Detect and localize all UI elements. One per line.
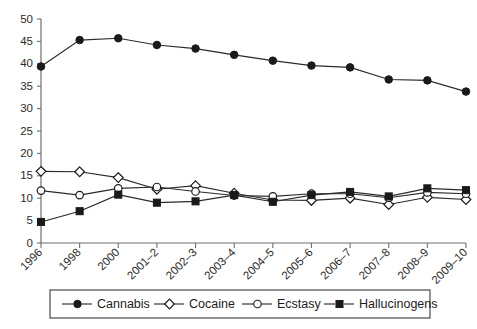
data-point-marker (75, 167, 85, 177)
data-point-marker (192, 45, 200, 53)
data-point-marker (462, 88, 470, 96)
y-axis-tick-label: 0 (27, 237, 33, 249)
y-axis-tick-label: 5 (27, 214, 33, 226)
data-point-marker (424, 185, 431, 192)
data-point-marker (76, 36, 84, 44)
x-axis-tick-label: 2006–7 (318, 246, 354, 282)
chart-legend: CannabisCocaineEcstasyHallucinogens (50, 290, 438, 318)
data-point-marker (336, 300, 343, 307)
x-axis: 1996199820002001–22002–32003–42004–52005… (18, 243, 470, 286)
x-axis-tick-label: 2004–5 (241, 246, 277, 282)
data-point-marker (37, 63, 45, 71)
x-axis-tick-label: 2008–9 (395, 246, 431, 282)
data-point-marker (115, 191, 122, 198)
line-chart: 05101520253035404550 1996199820002001–22… (0, 0, 477, 329)
data-point-marker (347, 188, 354, 195)
data-point-marker (37, 218, 44, 225)
data-point-marker (308, 62, 316, 70)
series-line (41, 188, 466, 222)
series-cocaine (36, 166, 471, 209)
legend-label: Hallucinogens (359, 297, 438, 311)
data-point-marker (385, 193, 392, 200)
data-point-marker (424, 77, 432, 85)
y-axis: 05101520253035404550 (20, 13, 41, 249)
legend-label: Cocaine (189, 297, 235, 311)
y-axis-tick-label: 10 (20, 192, 33, 204)
data-point-marker (230, 51, 238, 59)
data-point-marker (269, 57, 277, 65)
x-axis-tick-label: 2005–6 (279, 246, 315, 282)
data-point-marker (36, 166, 46, 176)
y-axis-tick-label: 35 (20, 80, 33, 92)
data-point-marker (115, 34, 123, 42)
legend-label: Cannabis (97, 297, 150, 311)
x-axis-tick-label: 2003–4 (202, 246, 238, 282)
legend-label: Ecstasy (277, 297, 322, 311)
y-axis-tick-label: 15 (20, 169, 33, 181)
y-axis-tick-label: 25 (20, 125, 33, 137)
data-point-marker (308, 192, 315, 199)
data-point-marker (385, 76, 393, 84)
data-point-marker (153, 199, 160, 206)
data-point-marker (37, 187, 45, 195)
y-axis-tick-label: 30 (20, 102, 33, 114)
data-point-marker (462, 187, 469, 194)
x-axis-tick-label: 2007–8 (357, 246, 393, 282)
x-axis-tick-label: 1996 (18, 246, 45, 273)
series-line (41, 187, 466, 198)
data-point-marker (269, 198, 276, 205)
x-axis-tick-label: 2001–2 (125, 246, 161, 282)
x-axis-tick-label: 2000 (95, 246, 122, 273)
series-line (41, 171, 466, 204)
data-point-marker (231, 192, 238, 199)
data-point-marker (76, 191, 84, 199)
x-axis-tick-label: 2009–10 (429, 246, 469, 286)
data-point-marker (113, 173, 123, 183)
chart-canvas: 05101520253035404550 1996199820002001–22… (0, 0, 477, 329)
data-point-marker (192, 188, 200, 196)
y-axis-tick-label: 45 (20, 35, 33, 47)
y-axis-tick-label: 50 (20, 13, 33, 25)
data-point-marker (192, 198, 199, 205)
x-axis-tick-label: 1998 (56, 246, 83, 273)
data-point-marker (76, 208, 83, 215)
data-point-marker (346, 64, 354, 72)
data-point-marker (153, 183, 161, 191)
x-axis-tick-label: 2002–3 (163, 246, 199, 282)
series-line (41, 38, 466, 91)
data-point-marker (153, 41, 161, 49)
data-point-marker (254, 300, 262, 308)
y-axis-tick-label: 40 (20, 57, 33, 69)
y-axis-tick-label: 20 (20, 147, 33, 159)
data-point-marker (74, 300, 82, 308)
plot-series-group (36, 34, 471, 225)
series-cannabis (37, 34, 470, 95)
